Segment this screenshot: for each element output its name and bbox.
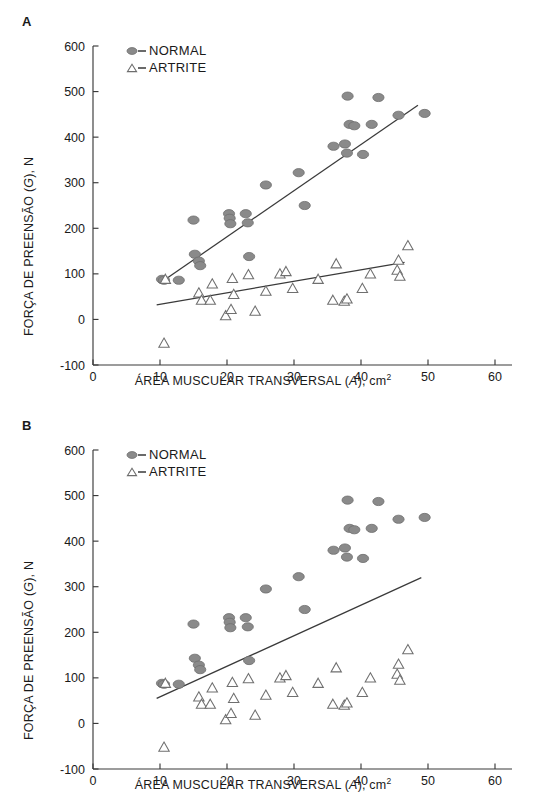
open-triangle-marker-icon [126,61,148,75]
svg-text:300: 300 [64,580,85,594]
data-point [419,109,430,117]
data-point [188,620,199,628]
svg-text:0: 0 [78,313,85,327]
svg-text:200: 200 [64,626,85,640]
data-point [226,708,236,717]
svg-text:600: 600 [64,444,85,458]
data-point [342,92,353,100]
data-point [260,181,271,189]
data-point [373,497,384,505]
data-point [341,149,352,157]
svg-text:500: 500 [64,489,85,503]
data-point [173,276,184,284]
data-point [207,683,217,692]
svg-text:-100: -100 [60,763,85,777]
data-point [357,283,367,292]
filled-circle-marker-icon [126,44,148,58]
data-point [313,678,323,687]
svg-text:200: 200 [64,222,85,236]
data-point [242,623,253,631]
data-point [393,659,403,668]
data-point [328,142,339,150]
svg-text:400: 400 [64,131,85,145]
filled-circle-marker-icon [126,448,148,462]
panel-a-legend: NORMAL ARTRITE [126,42,206,76]
svg-text:100: 100 [64,671,85,685]
data-point [293,573,304,581]
data-point [349,526,360,534]
series-normal [156,92,430,284]
data-point [243,270,253,279]
data-point [261,690,271,699]
data-point [227,273,237,282]
data-point [250,306,260,315]
data-point [313,274,323,283]
data-point [365,269,375,278]
legend-item-artrite: ARTRITE [126,59,206,76]
panel-b: B FORÇA DE PREENSÃO (G), N 0102030405060… [0,404,557,808]
svg-text:500: 500 [64,85,85,99]
data-point [173,680,184,688]
data-point [341,553,352,561]
data-point [287,687,297,696]
data-point [240,210,251,218]
data-point [229,693,239,702]
panel-a: A FORÇA DE PREENSÃO (G), N 0102030405060… [0,0,557,404]
legend-item-normal: NORMAL [126,446,206,463]
data-point [195,262,206,270]
data-point [281,670,291,679]
data-point [299,605,310,613]
data-point [393,515,404,523]
data-point [194,692,204,701]
legend-label-normal: NORMAL [149,42,206,59]
data-point [242,219,253,227]
panel-a-x-axis-label: ÁREA MUSCULAR TRANSVERSAL (A), cm2 [93,372,433,388]
panel-b-legend: NORMAL ARTRITE [126,446,206,480]
data-point [281,266,291,275]
svg-text:600: 600 [64,40,85,54]
data-point [328,699,338,708]
panel-b-plot: 0102030405060-1000100200300400500600 [0,404,557,808]
svg-text:400: 400 [64,535,85,549]
data-point [331,259,341,268]
data-point [349,122,360,130]
combined-fit [157,578,422,699]
data-point [366,524,377,532]
svg-text:-100: -100 [60,359,85,373]
data-point [226,304,236,313]
panel-a-plot: 0102030405060-1000100200300400500600 [0,0,557,404]
data-point [159,338,169,347]
figure-container: A FORÇA DE PREENSÃO (G), N 0102030405060… [0,0,557,808]
legend-item-normal: NORMAL [126,42,206,59]
data-point [328,546,339,554]
data-point [159,742,169,751]
data-point [339,140,350,148]
panel-b-x-axis-label: ÁREA MUSCULAR TRANSVERSAL (A), cm2 [93,776,433,792]
data-point [328,295,338,304]
data-point [225,624,236,632]
svg-text:300: 300 [64,176,85,190]
data-point [393,111,404,119]
ARTRITE-fit [157,262,405,304]
data-point [299,201,310,209]
data-point [240,614,251,622]
data-point [339,544,350,552]
data-point [357,687,367,696]
data-point [357,554,368,562]
data-point [194,288,204,297]
data-point [293,169,304,177]
svg-text:60: 60 [488,370,502,384]
svg-text:0: 0 [78,717,85,731]
data-point [403,240,413,249]
svg-text:60: 60 [488,774,502,788]
data-point [195,666,206,674]
legend-label-normal: NORMAL [149,446,206,463]
data-point [244,252,255,260]
data-point [287,283,297,292]
svg-text:100: 100 [64,267,85,281]
data-point [205,699,215,708]
data-point [403,644,413,653]
legend-label-artrite: ARTRITE [149,463,206,480]
data-point [227,677,237,686]
data-point [365,673,375,682]
